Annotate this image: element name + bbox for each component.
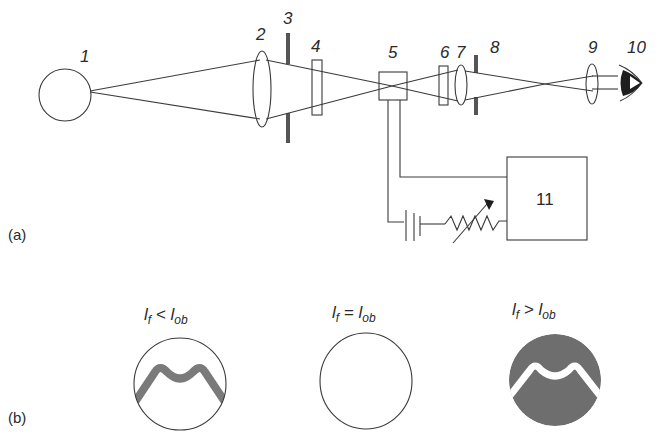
wire-left — [388, 100, 404, 222]
label-7: 7 — [456, 43, 466, 62]
label-5: 5 — [388, 43, 398, 62]
ray-lower-2 — [266, 86, 392, 119]
eyepiece-lens-9 — [586, 64, 598, 104]
panel-b-label: (b) — [8, 409, 26, 426]
case-greater-view: lf > lob — [505, 300, 605, 426]
battery-icon — [406, 210, 420, 241]
label-3: 3 — [283, 9, 293, 28]
case-greater-label: lf > lob — [512, 300, 556, 322]
label-10: 10 — [627, 38, 646, 57]
ray-upper-2 — [266, 60, 392, 86]
label-8: 8 — [490, 38, 500, 57]
case-equal-label: lf = lob — [332, 303, 376, 325]
panel-b: lf < lob lf = lob lf > lob (b) — [8, 300, 605, 430]
field-circle-equal — [320, 333, 412, 429]
filter-6 — [439, 66, 448, 105]
light-source-circle — [39, 69, 91, 121]
label-4: 4 — [311, 37, 320, 56]
variable-resistor-icon — [445, 199, 507, 243]
panel-a: 1 2 3 4 5 6 7 8 — [8, 9, 646, 243]
case-less-label: lf < lob — [144, 305, 188, 327]
label-11: 11 — [536, 190, 554, 209]
panel-a-label: (a) — [8, 226, 26, 243]
case-less-view: lf < lob — [133, 305, 227, 430]
label-9: 9 — [588, 38, 598, 57]
eye-icon — [619, 65, 642, 101]
case-equal-view: lf = lob — [320, 303, 412, 429]
condenser-lens — [253, 51, 271, 127]
label-2: 2 — [255, 25, 266, 44]
ray-upper-1 — [90, 60, 260, 91]
ray-lower-4 — [465, 84, 545, 100]
optical-pyrometer-diagram: 1 2 3 4 5 6 7 8 — [0, 0, 659, 441]
label-1: 1 — [80, 47, 89, 66]
ray-upper-4 — [465, 71, 545, 84]
label-6: 6 — [440, 43, 450, 62]
wire-right — [400, 100, 507, 177]
ray-lower-1 — [90, 92, 260, 119]
filament-dark — [133, 368, 227, 405]
